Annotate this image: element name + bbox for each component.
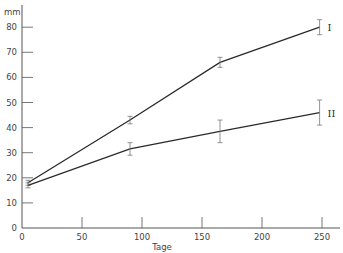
x-tick-label: 150: [194, 232, 210, 242]
x-tick-label: 250: [314, 232, 330, 242]
series-line-I: [28, 27, 320, 183]
line-chart: 01020304050607080050100150200250 III mm …: [0, 0, 343, 253]
x-tick-label: 100: [134, 232, 150, 242]
y-tick-label: 80: [6, 22, 17, 32]
y-tick-label: 60: [6, 72, 17, 82]
x-tick-label: 200: [254, 232, 270, 242]
y-tick-label: 0: [12, 223, 17, 233]
series-line-II: [28, 113, 320, 186]
y-tick-label: 40: [6, 123, 17, 133]
y-tick-label: 20: [6, 173, 17, 183]
y-tick-label: 10: [6, 198, 17, 208]
y-axis-label: mm: [4, 7, 21, 17]
y-tick-label: 30: [6, 148, 17, 158]
error-bar: [128, 116, 133, 124]
y-tick-label: 70: [6, 47, 17, 57]
series-group: III: [26, 20, 336, 188]
x-axis-label: Tage: [151, 242, 172, 252]
x-tick-label: 50: [77, 232, 88, 242]
series-label-I: I: [328, 22, 332, 33]
x-tick-label: 0: [19, 232, 24, 242]
series-label-II: II: [328, 108, 336, 119]
y-tick-label: 50: [6, 98, 17, 108]
axes: 01020304050607080050100150200250: [6, 5, 340, 242]
